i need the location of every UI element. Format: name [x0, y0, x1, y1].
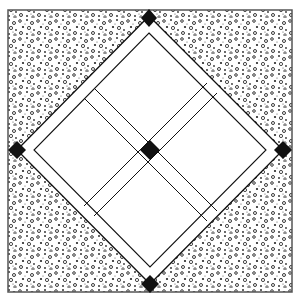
quilt-block-diagram [0, 0, 299, 301]
quilt-block-svg [0, 0, 299, 301]
